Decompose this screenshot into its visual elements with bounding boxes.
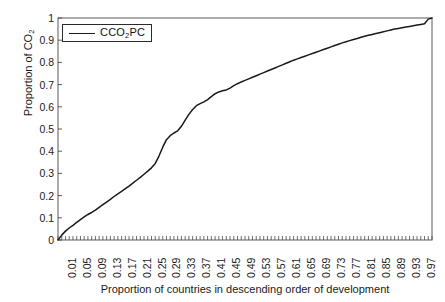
x-axis-tick-label: 0.73 — [335, 258, 347, 278]
legend-label-post: PC — [129, 26, 145, 38]
x-axis-tick-label: 0.77 — [350, 258, 362, 278]
x-axis-tick-label: 0.01 — [66, 258, 78, 278]
x-axis-tick-label: 0.61 — [290, 258, 302, 278]
x-axis-tick-label: 0.97 — [425, 258, 437, 278]
x-axis-tick-label: 0.93 — [410, 258, 422, 278]
legend-label: CCO2PC — [100, 26, 145, 40]
chart-figure: 00.10.20.30.40.50.60.70.80.91 0.010.050.… — [0, 0, 445, 302]
x-axis-tick-label: 0.05 — [81, 258, 93, 278]
x-axis-tick-label: 0.29 — [170, 258, 182, 278]
x-axis-tick-labels: 0.010.050.090.130.170.210.250.290.330.37… — [0, 0, 445, 302]
x-axis-tick-label: 0.53 — [260, 258, 272, 278]
legend-line-swatch — [69, 33, 95, 34]
y-axis-title-text: Proportion of CO — [22, 34, 34, 117]
x-axis-tick-label: 0.69 — [320, 258, 332, 278]
x-axis-tick-label: 0.49 — [245, 258, 257, 278]
x-axis-tick-label: 0.85 — [380, 258, 392, 278]
x-axis-tick-label: 0.81 — [365, 258, 377, 278]
x-axis-tick-label: 0.41 — [215, 258, 227, 278]
x-axis-tick-label: 0.21 — [141, 258, 153, 278]
y-axis-title: Proportion of CO2 — [22, 0, 36, 148]
x-axis-tick-label: 0.65 — [305, 258, 317, 278]
x-axis-tick-label: 0.17 — [126, 258, 138, 278]
x-axis-tick-label: 0.09 — [96, 258, 108, 278]
x-axis-tick-label: 0.13 — [111, 258, 123, 278]
x-axis-tick-label: 0.37 — [200, 258, 212, 278]
x-axis-tick-label: 0.89 — [395, 258, 407, 278]
legend-label-pre: CCO — [100, 26, 125, 38]
x-axis-tick-label: 0.33 — [185, 258, 197, 278]
x-axis-tick-label: 0.57 — [275, 258, 287, 278]
legend: CCO2PC — [62, 24, 152, 42]
x-axis-tick-label: 0.45 — [230, 258, 242, 278]
y-axis-title-subscript: 2 — [27, 30, 36, 34]
x-axis-title: Proportion of countries in descending or… — [58, 283, 432, 295]
x-axis-tick-label: 0.25 — [156, 258, 168, 278]
